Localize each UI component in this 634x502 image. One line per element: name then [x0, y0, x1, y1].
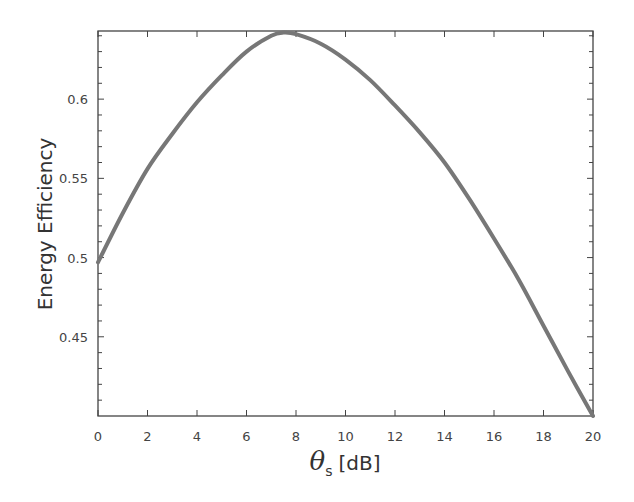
x-axis-symbol: θ	[310, 446, 326, 476]
x-tick-label: 16	[486, 429, 503, 444]
y-tick-label: 0.55	[59, 171, 88, 186]
x-tick-label: 2	[143, 429, 151, 444]
y-axis-title: Energy Efficiency	[33, 137, 57, 310]
plot-frame	[98, 31, 593, 416]
x-tick-label: 14	[436, 429, 453, 444]
x-axis-unit: [dB]	[338, 451, 380, 475]
x-axis-title: θs[dB]	[310, 446, 381, 479]
x-tick-label: 6	[242, 429, 250, 444]
x-tick-label: 20	[585, 429, 602, 444]
y-tick-label: 0.6	[67, 92, 88, 107]
plot-border	[98, 31, 593, 416]
y-tick-label: 0.5	[67, 251, 88, 266]
x-tick-label: 8	[292, 429, 300, 444]
x-tick-label: 18	[535, 429, 552, 444]
x-axis-subscript: s	[325, 463, 332, 479]
series-layer	[98, 32, 593, 416]
x-tick-label: 10	[337, 429, 354, 444]
series-line	[98, 32, 593, 416]
y-axis-ticks: 0.450.50.550.6	[59, 36, 593, 400]
x-tick-label: 4	[193, 429, 201, 444]
x-tick-label: 0	[94, 429, 102, 444]
y-tick-label: 0.45	[59, 330, 88, 345]
x-tick-label: 12	[387, 429, 404, 444]
energy-efficiency-chart: 02468101214161820 0.450.50.550.6 Energy …	[0, 0, 634, 502]
x-axis-ticks: 02468101214161820	[94, 31, 601, 444]
